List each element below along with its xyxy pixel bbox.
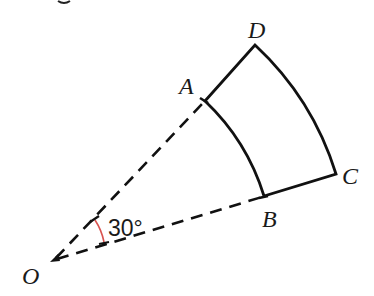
angle-arc — [95, 220, 104, 242]
label-B: B — [262, 206, 277, 232]
label-O: O — [22, 263, 39, 289]
label-C: C — [342, 163, 359, 189]
label-D: D — [247, 17, 265, 43]
cropped-text-fragment — [58, 1, 70, 3]
angle-arc-tick-upper — [90, 216, 99, 222]
radius-OB-dashed — [57, 197, 262, 259]
angle-label: 30° — [108, 215, 143, 241]
tick-B — [259, 196, 268, 198]
angle-arc-tick-lower — [99, 242, 109, 244]
sector-diagram: 30° O A B C D — [0, 0, 374, 296]
shaded-region-ABCD — [205, 45, 336, 196]
label-A: A — [177, 73, 194, 99]
